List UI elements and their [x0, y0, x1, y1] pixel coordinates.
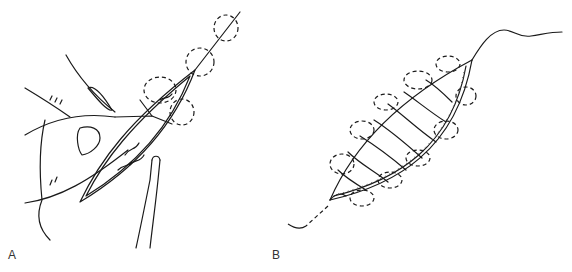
closed-wound-suture-drawing [286, 0, 572, 272]
panel-a-illustration: A [0, 0, 286, 272]
panel-a-label: A [8, 248, 16, 262]
panel-b-label: B [272, 248, 280, 262]
panel-b-illustration [286, 0, 572, 272]
hand-forceps-suture-drawing [0, 0, 286, 272]
